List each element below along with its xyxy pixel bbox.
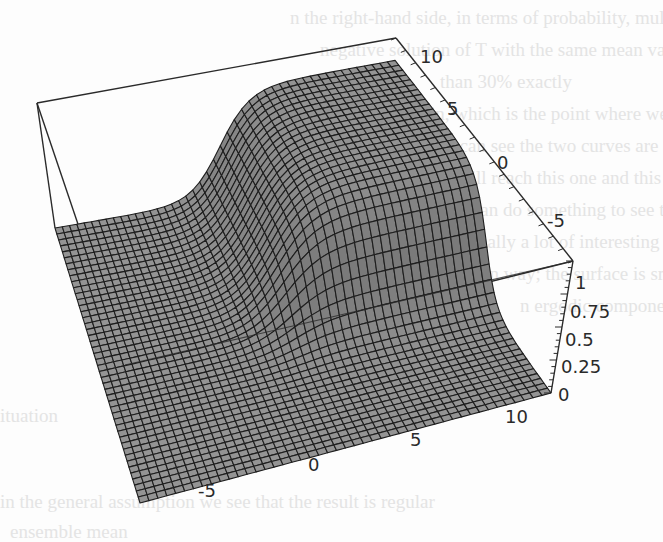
y-tick-mark [539, 224, 544, 226]
surface-plot: -505101050-510.750.50.250 [0, 0, 663, 542]
y-tick-mark [411, 63, 416, 65]
z-axis-tick-label: 0 [558, 384, 569, 405]
y-axis-tick-label: -5 [547, 210, 565, 231]
y-tick-mark [519, 199, 524, 201]
y-tick-mark [480, 150, 485, 152]
box-edge [37, 103, 55, 228]
y-tick-mark [499, 174, 504, 176]
z-axis-tick-label: 0.5 [565, 329, 594, 350]
mesh-cell [476, 229, 487, 249]
x-axis-tick-label: 10 [505, 406, 528, 427]
y-tick-mark [509, 187, 514, 189]
y-tick-mark [421, 75, 426, 77]
y-tick-mark [529, 211, 534, 213]
x-axis-tick-label: -5 [198, 480, 216, 501]
y-axis-tick-label: 0 [497, 152, 508, 173]
z-axis-tick-label: 0.75 [570, 301, 610, 322]
z-axis-tick-label: 0.25 [561, 356, 601, 377]
mesh-cell [474, 212, 485, 231]
surface-mesh [55, 60, 551, 503]
x-axis-tick-label: 0 [308, 454, 319, 475]
y-tick-mark [489, 162, 494, 164]
mesh-cell [478, 247, 489, 266]
x-axis-tick-label: 5 [410, 429, 421, 450]
y-axis-tick-label: 10 [420, 46, 443, 67]
z-axis-tick-label: 1 [575, 272, 586, 293]
y-tick-mark [460, 125, 465, 127]
y-axis-tick-label: 5 [447, 98, 458, 119]
mesh-cell [481, 264, 492, 281]
mesh-cell [471, 197, 482, 214]
y-tick-mark [470, 137, 475, 139]
y-tick-mark [430, 88, 435, 90]
y-tick-mark [558, 249, 563, 251]
y-tick-mark [440, 100, 445, 102]
y-tick-mark [401, 50, 406, 52]
y-tick-mark [548, 236, 553, 238]
